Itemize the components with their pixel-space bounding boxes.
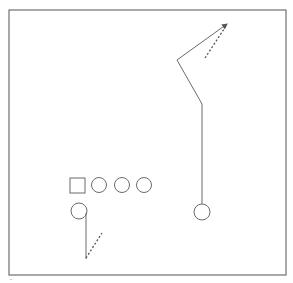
caption: - [10, 276, 12, 282]
field-frame [9, 10, 286, 275]
play-diagram [0, 0, 293, 283]
